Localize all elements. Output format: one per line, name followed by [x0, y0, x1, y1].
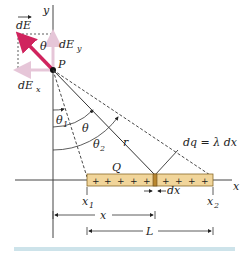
- y-axis-label: y: [42, 4, 50, 17]
- svg-text:+: +: [130, 176, 138, 186]
- x1-label: x: [82, 195, 89, 208]
- theta2-label: θ: [93, 138, 100, 151]
- ray-to-x2: [53, 70, 213, 177]
- svg-text:+: +: [201, 176, 209, 186]
- L-dim-label: L: [145, 225, 153, 238]
- dEy-subscript: y: [76, 44, 82, 53]
- footer-bar: [14, 247, 235, 251]
- svg-text:+: +: [188, 176, 196, 186]
- dq-label: dq = λ dx: [183, 136, 238, 149]
- svg-text:+: +: [92, 176, 100, 186]
- x1-subscript: 1: [89, 201, 94, 210]
- svg-text:+: +: [143, 176, 151, 186]
- x2-subscript: 2: [213, 201, 219, 210]
- charged-rod-diagram: y x dE θ dE y dE x P θ 1 θ θ 2 r dq = λ …: [0, 0, 247, 254]
- r-label: r: [123, 136, 129, 149]
- dq-leader: [155, 150, 178, 175]
- theta2-subscript: 2: [99, 144, 105, 153]
- dEy-label: dE: [59, 38, 74, 51]
- dEx-label: dE: [18, 79, 33, 92]
- x-dim-label: x: [100, 209, 107, 222]
- theta-top-label: θ: [40, 40, 47, 53]
- svg-text:+: +: [117, 176, 125, 186]
- charge-label: Q: [112, 161, 121, 174]
- theta1-subscript: 1: [63, 120, 68, 129]
- dE-label: dE: [16, 19, 31, 32]
- ray-r: [53, 70, 155, 175]
- dx-label: dx: [167, 184, 181, 197]
- x-axis-label: x: [233, 180, 240, 193]
- theta1-label: θ: [56, 114, 63, 127]
- charge-element-dx: [153, 174, 157, 186]
- point-p-label: P: [57, 58, 66, 71]
- dE-vector: [23, 39, 53, 70]
- svg-text:+: +: [104, 176, 112, 186]
- x2-label: x: [207, 195, 214, 208]
- theta1-arc: [53, 109, 64, 110]
- dEx-subscript: x: [36, 85, 41, 94]
- theta-label: θ: [82, 122, 89, 135]
